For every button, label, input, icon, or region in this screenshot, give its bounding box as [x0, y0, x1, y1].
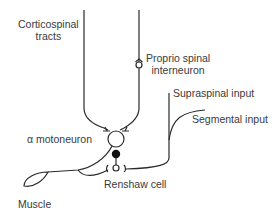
corticospinal-line2: tracts — [18, 30, 79, 42]
label-supraspinal: Supraspinal input — [173, 87, 254, 99]
muscle-icon — [24, 172, 48, 186]
corticospinal-tract-line — [84, 10, 108, 130]
label-renshaw: Renshaw cell — [104, 178, 166, 190]
label-propriospinal: Proprio spinal interneuron — [146, 52, 210, 76]
motor-axon — [48, 146, 112, 172]
inhibitory-synapse-icon — [112, 150, 119, 157]
corticospinal-line1: Corticospinal — [18, 18, 79, 30]
propriospinal-line — [120, 10, 139, 130]
label-corticospinal: Corticospinal tracts — [18, 18, 79, 42]
label-motoneuron: α motoneuron — [27, 133, 92, 145]
propriospinal-line1: Proprio spinal — [146, 52, 210, 64]
alpha-motoneuron-icon — [108, 131, 124, 147]
label-muscle: Muscle — [18, 198, 51, 210]
label-segmental: Segmental input — [192, 113, 268, 125]
renshaw-cell-icon — [107, 165, 126, 172]
supraspinal-input-line — [126, 93, 169, 169]
axon-collateral — [78, 170, 108, 175]
propriospinal-line2: interneuron — [146, 64, 210, 76]
